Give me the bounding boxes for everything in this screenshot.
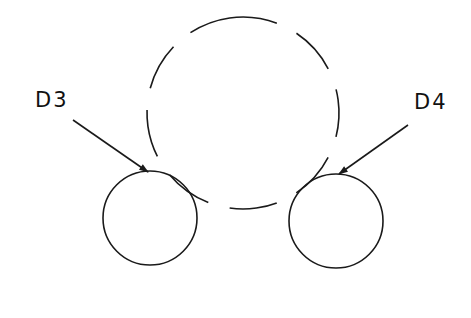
leader-arrow-d4	[339, 125, 408, 174]
large-dashed-circle	[135, 5, 352, 222]
leader-arrow-d3	[73, 120, 148, 172]
small-circle-d3	[103, 171, 197, 265]
label-d4: D4	[414, 90, 448, 114]
diagram-canvas	[0, 0, 471, 318]
label-d3: D3	[35, 88, 69, 112]
small-circle-d4	[289, 174, 383, 268]
